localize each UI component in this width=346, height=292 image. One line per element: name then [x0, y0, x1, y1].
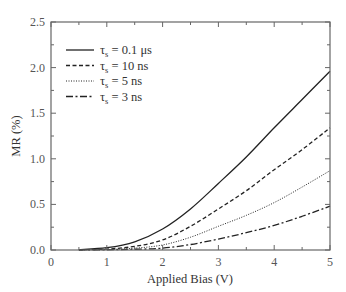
legend-label: τs = 10 ns: [100, 59, 149, 75]
y-tick-label: 0.0: [30, 243, 45, 257]
legend-label: τs = 0.1 μs: [100, 43, 152, 59]
x-tick-label: 3: [215, 255, 221, 269]
series-line-dashdot: [79, 206, 330, 250]
y-tick-label: 1.5: [30, 106, 45, 120]
y-tick-label: 1.0: [30, 152, 45, 166]
legend-label: τs = 3 ns: [100, 90, 142, 106]
x-tick-label: 2: [160, 255, 166, 269]
y-axis-label: MR (%): [9, 115, 23, 156]
x-tick-label: 1: [104, 255, 110, 269]
y-tick-label: 2.5: [30, 15, 45, 29]
x-tick-label: 5: [327, 255, 333, 269]
series-line-dotted: [79, 171, 330, 250]
mr-vs-bias-chart: 0123450.00.51.01.52.02.5 τs = 0.1 μsτs =…: [0, 0, 346, 292]
legend-label: τs = 5 ns: [100, 74, 142, 90]
legend: τs = 0.1 μsτs = 10 nsτs = 5 nsτs = 3 ns: [66, 43, 152, 106]
x-tick-label: 0: [48, 255, 54, 269]
x-tick-label: 4: [271, 255, 277, 269]
y-tick-label: 0.5: [30, 197, 45, 211]
y-tick-label: 2.0: [30, 61, 45, 75]
x-axis-label: Applied Bias (V): [147, 272, 233, 286]
plot-frame: [51, 22, 330, 250]
